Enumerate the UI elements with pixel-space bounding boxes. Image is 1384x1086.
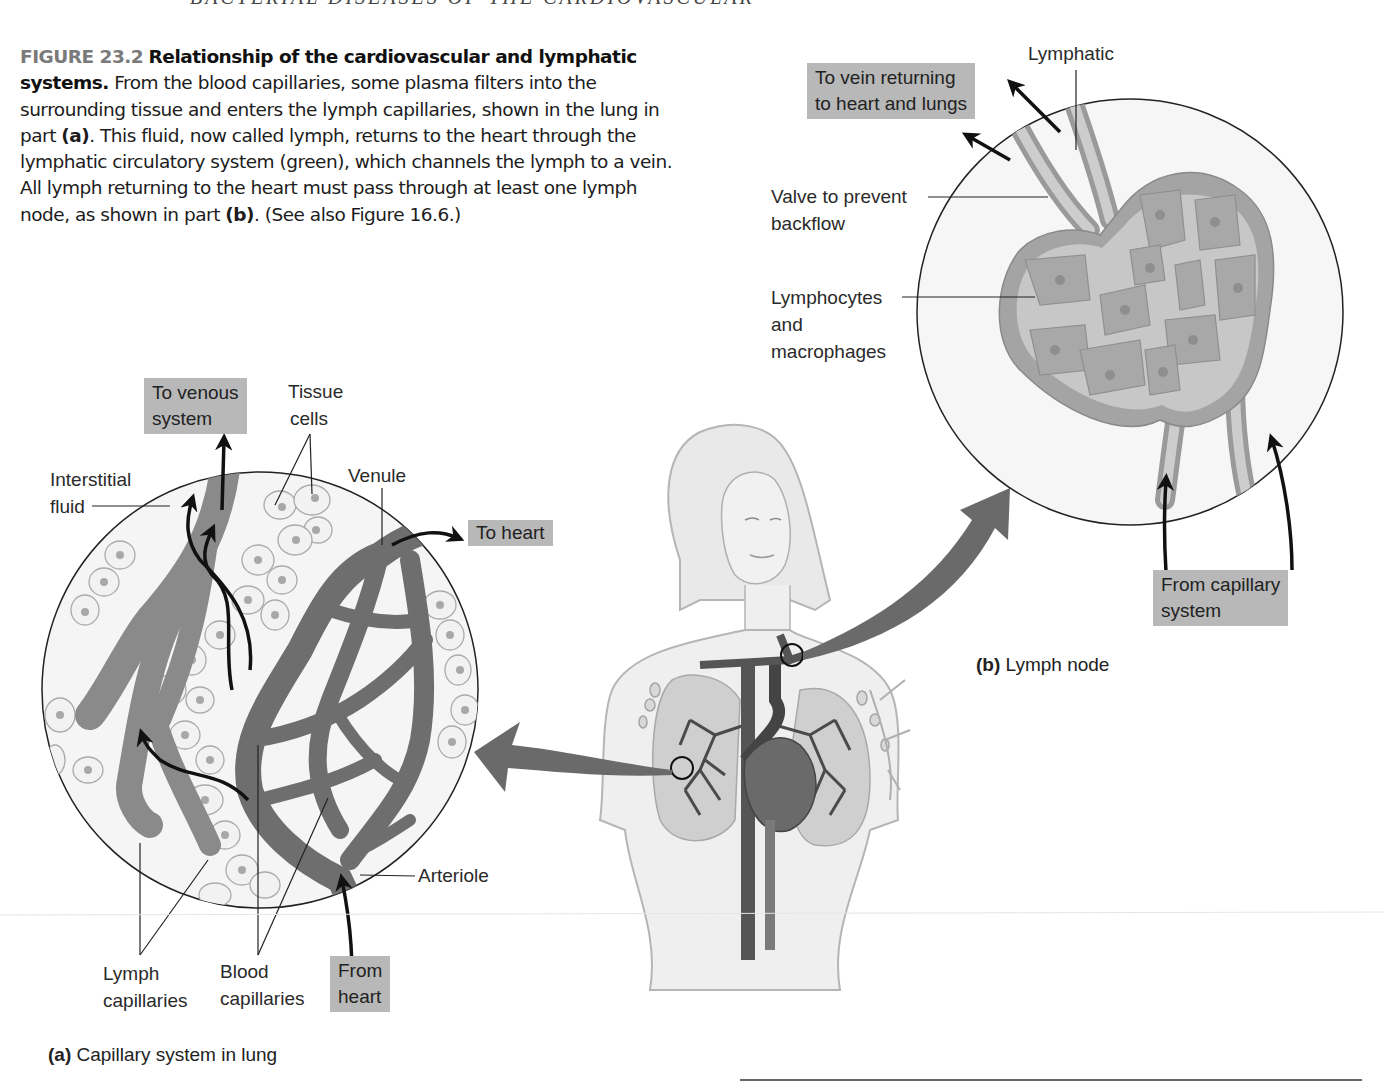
label-venule: Venule — [348, 462, 406, 489]
part-b-letter: (b) — [976, 654, 1000, 675]
diagram-artwork — [0, 0, 1384, 1086]
part-b-title: Lymph node — [1006, 654, 1110, 675]
label-line: Interstitial — [50, 466, 131, 493]
label-lymphocytes-macrophages: Lymphocytes and macrophages — [771, 284, 886, 365]
label-lymph-capillaries: Lymph capillaries — [103, 960, 187, 1014]
label-line: macrophages — [771, 338, 886, 365]
label-line: To vein returning — [815, 65, 967, 91]
label-line: and — [771, 311, 886, 338]
label-line: capillaries — [220, 985, 304, 1012]
part-a-letter: (a) — [48, 1044, 71, 1065]
label-line: system — [152, 406, 239, 432]
label-blood-capillaries: Blood capillaries — [220, 958, 304, 1012]
label-arteriole: Arteriole — [418, 862, 489, 889]
label-to-heart: To heart — [468, 520, 553, 546]
label-to-venous-system: To venous system — [144, 378, 247, 434]
part-b-caption: (b) Lymph node — [976, 654, 1109, 676]
label-line: to heart and lungs — [815, 91, 967, 117]
label-line: From capillary — [1161, 572, 1280, 598]
label-line: Lymph — [103, 960, 187, 987]
label-valve: Valve to prevent backflow — [771, 183, 907, 237]
label-line: From — [338, 958, 382, 984]
label-to-vein-returning: To vein returning to heart and lungs — [807, 63, 975, 119]
human-torso-illustration — [600, 425, 910, 990]
label-line: fluid — [50, 493, 131, 520]
label-from-capillary-system: From capillary system — [1153, 570, 1288, 626]
label-line: Blood — [220, 958, 304, 985]
label-tissue-cells: Tissue cells — [288, 378, 343, 432]
label-line: system — [1161, 598, 1280, 624]
label-interstitial-fluid: Interstitial fluid — [50, 466, 131, 520]
label-line: To venous — [152, 380, 239, 406]
part-a-caption: (a) Capillary system in lung — [48, 1044, 277, 1066]
part-a-title: Capillary system in lung — [77, 1044, 278, 1065]
lymph-node-magnified-view — [902, 70, 1343, 572]
label-line: cells — [288, 405, 343, 432]
label-line: Valve to prevent — [771, 183, 907, 210]
label-line: Lymphocytes — [771, 284, 886, 311]
label-line: backflow — [771, 210, 907, 237]
label-line: capillaries — [103, 987, 187, 1014]
pointer-arrow-to-part-b — [803, 488, 1010, 660]
label-line: heart — [338, 984, 382, 1010]
label-from-heart: From heart — [330, 956, 390, 1012]
label-lymphatic: Lymphatic — [1028, 40, 1114, 67]
label-line: Tissue — [288, 378, 343, 405]
